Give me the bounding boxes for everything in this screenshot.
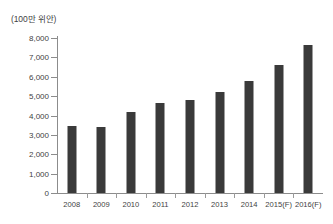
y-axis-tick-label: 6,000	[29, 72, 49, 81]
x-axis-tick-label: 2010	[122, 200, 139, 209]
x-axis-tick-mark	[146, 193, 147, 198]
y-axis-tick-mark	[51, 96, 57, 97]
y-axis-tick-mark	[51, 174, 57, 175]
y-axis-tick-mark	[51, 116, 57, 117]
x-axis-tick-label: 2012	[182, 200, 199, 209]
x-axis-tick-mark	[205, 193, 206, 198]
bar[interactable]	[97, 127, 106, 193]
bar[interactable]	[156, 103, 165, 193]
y-axis-tick-label: 5,000	[29, 92, 49, 101]
x-axis-tick-mark	[264, 193, 265, 198]
bar-chart-figure: (100만 위안) 01,0002,0003,0004,0005,0006,00…	[0, 0, 333, 224]
x-axis-tick-label: 2013	[211, 200, 228, 209]
x-axis-tick-label: 2015(F)	[265, 200, 292, 209]
y-axis-tick-mark	[51, 77, 57, 78]
x-axis-tick-mark	[87, 193, 88, 198]
x-axis-tick-label: 2014	[241, 200, 258, 209]
y-axis-tick-label: 1,000	[29, 169, 49, 178]
y-axis-tick-label: 3,000	[29, 130, 49, 139]
y-axis-tick-label: 0	[45, 189, 49, 198]
y-axis-tick-label: 8,000	[29, 34, 49, 43]
bar[interactable]	[245, 81, 254, 193]
x-axis-tick-mark	[116, 193, 117, 198]
bar[interactable]	[215, 92, 224, 193]
x-axis-tick-mark	[293, 193, 294, 198]
bar[interactable]	[186, 100, 195, 193]
y-axis-tick-label: 4,000	[29, 111, 49, 120]
y-axis-unit-label: (100만 위안)	[11, 12, 56, 24]
bar[interactable]	[304, 45, 313, 193]
x-axis-tick-mark	[175, 193, 176, 198]
x-axis-tick-mark	[234, 193, 235, 198]
bar[interactable]	[67, 126, 76, 193]
plot-area: 01,0002,0003,0004,0005,0006,0007,0008,00…	[57, 38, 323, 193]
y-axis-tick-label: 7,000	[29, 53, 49, 62]
y-axis-tick-mark	[51, 57, 57, 58]
x-axis-tick-label: 2011	[152, 200, 168, 209]
y-axis-tick-mark	[51, 154, 57, 155]
y-axis-tick-label: 2,000	[29, 150, 49, 159]
y-axis-tick-mark	[51, 38, 57, 39]
bar[interactable]	[126, 112, 135, 193]
x-axis-tick-label: 2009	[93, 200, 110, 209]
bar[interactable]	[274, 65, 283, 193]
x-axis-line	[57, 193, 323, 194]
x-axis-tick-label: 2016(F)	[295, 200, 322, 209]
y-axis-tick-mark	[51, 193, 57, 194]
x-axis-tick-label: 2008	[63, 200, 80, 209]
y-axis-tick-mark	[51, 135, 57, 136]
